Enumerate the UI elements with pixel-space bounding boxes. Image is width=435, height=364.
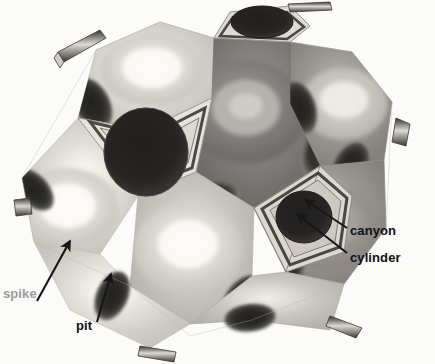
polyhedron-body bbox=[6, 2, 410, 362]
figure-canvas: canyon cylinder spike pit bbox=[0, 0, 435, 364]
edge-slab bbox=[288, 2, 332, 12]
cylinder-hole bbox=[231, 6, 293, 38]
edge-slab bbox=[14, 198, 32, 216]
label-pit: pit bbox=[76, 319, 92, 332]
label-canyon: canyon bbox=[350, 224, 396, 237]
label-cylinder: cylinder bbox=[350, 251, 401, 264]
label-spike: spike bbox=[3, 287, 37, 300]
polyhedron-render bbox=[0, 0, 435, 364]
edge-slab bbox=[392, 118, 410, 146]
edge-slab bbox=[326, 316, 362, 338]
